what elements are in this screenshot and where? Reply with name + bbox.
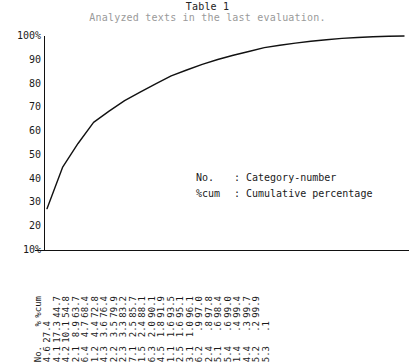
table-cell: .9 [195, 321, 204, 332]
table-cell: 2.4 [138, 321, 147, 337]
table-cell: 5.1 [214, 346, 223, 362]
table-cell: 54.8 [62, 296, 71, 318]
legend-row: No.:Category-number [196, 170, 372, 186]
data-table: No.%%cum4.627.44.117.344.74.210.154.82.1… [33, 252, 271, 346]
table-cell: 4.3 [100, 346, 109, 362]
table-cell: 91.9 [157, 296, 166, 318]
legend-key: No. [196, 170, 234, 186]
table-cell: 2.5 [176, 346, 185, 362]
table-cell: 68.4 [81, 296, 90, 318]
table-cell: 83.2 [119, 296, 128, 318]
table-cell: 10.1 [62, 321, 71, 343]
table-cell: 99.9 [252, 296, 261, 318]
table-cell: 2.3 [119, 346, 128, 362]
table-cell: 5.2 [252, 346, 261, 362]
table-column: 5.2.299.9 [252, 252, 262, 346]
table-cell: 1.4 [233, 346, 242, 362]
legend-separator: : [234, 170, 246, 186]
table-cell: 95.1 [176, 296, 185, 318]
table-cell: 3.3 [119, 321, 128, 337]
table-column: 5.3.1 [261, 252, 271, 346]
legend-description: Cumulative percentage [246, 188, 372, 199]
table-cell: 76.4 [100, 296, 109, 318]
table-cell: .2 [252, 321, 261, 332]
table-cell: 27.4 [43, 321, 52, 343]
table-cell: 88.1 [138, 296, 147, 318]
table-cell: 6.2 [195, 346, 204, 362]
table-cell: 1.5 [138, 346, 147, 362]
table-cell: 5.3 [261, 346, 270, 362]
table-cell: 1.8 [157, 321, 166, 337]
legend: No.:Category-number%cum:Cumulative perce… [196, 170, 372, 202]
table-cell: 1.6 [176, 321, 185, 337]
legend-description: Category-number [246, 172, 336, 183]
table-cell: 99.4 [233, 296, 242, 318]
table-cell: 4.2 [62, 346, 71, 362]
legend-key: %cum [196, 186, 234, 202]
table-cell: .1 [261, 321, 270, 332]
legend-row: %cum:Cumulative percentage [196, 186, 372, 202]
table-cell: .6 [214, 321, 223, 332]
table-cell: 97.0 [195, 296, 204, 318]
table-cell: 98.4 [214, 296, 223, 318]
legend-separator: : [234, 186, 246, 202]
table-cell: 3.6 [100, 321, 109, 337]
table-cell: 6.4 [81, 346, 90, 362]
table-cell: 4.7 [81, 321, 90, 337]
table-cell: 4.6 [43, 346, 52, 362]
table-cell: .4 [233, 321, 242, 332]
table-row-header: %cum [33, 296, 42, 318]
table-cell: 4.5 [157, 346, 166, 362]
